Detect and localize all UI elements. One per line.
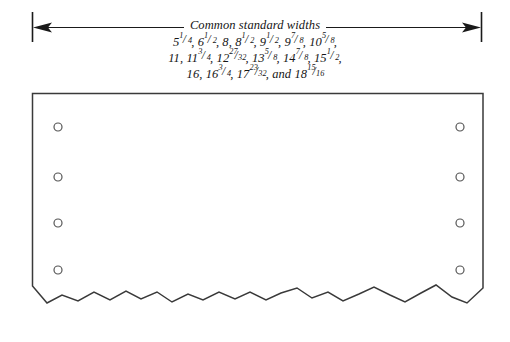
hole-left-3 — [54, 219, 62, 227]
hole-left-1 — [54, 123, 62, 131]
hole-right-2 — [456, 173, 464, 181]
board-body — [33, 94, 484, 304]
hole-left-2 — [54, 173, 62, 181]
hole-left-4 — [54, 266, 62, 274]
hole-right-4 — [456, 266, 464, 274]
hole-right-1 — [456, 123, 464, 131]
hole-right-3 — [456, 219, 464, 227]
board-illustration — [0, 0, 510, 342]
technical-diagram-page: Common standard widths 51/4, 61/2, 8, 81… — [0, 0, 510, 342]
